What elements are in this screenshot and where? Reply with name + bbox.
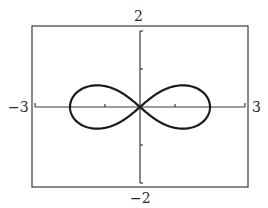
x-max-label: 3	[252, 100, 261, 114]
y-max-label: 2	[134, 9, 143, 23]
y-min-label: −2	[130, 191, 151, 205]
lemniscate-chart	[0, 0, 268, 208]
x-min-label: −3	[8, 100, 29, 114]
